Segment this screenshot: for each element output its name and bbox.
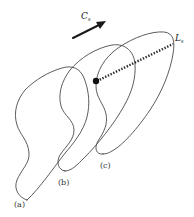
diagram-canvas [0,0,194,217]
shape-label-c: (c) [100,162,111,170]
shape-b-outline [58,45,135,171]
shape-a-outline [15,67,88,200]
shape-label-a: (a) [14,201,25,209]
arrow-label-cs: Cs [81,12,90,22]
arrow-label-sub: s [88,16,91,22]
origin-dot [93,78,99,84]
line-label-ls: Ls [175,34,184,44]
arrow-label-main: C [81,11,88,21]
line-label-sub: s [181,38,184,44]
shape-label-b: (b) [58,179,69,187]
arrow-shaft [73,25,99,38]
